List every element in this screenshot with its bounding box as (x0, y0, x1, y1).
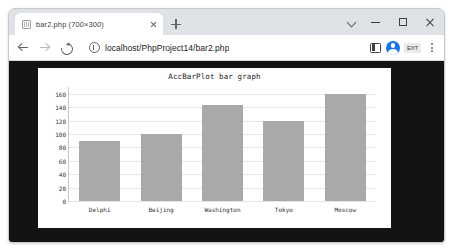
bar (202, 105, 243, 201)
browser-toolbar: localhost/PhpProject14/bar2.php EXT (9, 35, 444, 61)
page-favicon-icon (22, 20, 31, 29)
y-axis-tick-label: 120 (55, 117, 66, 124)
forward-button[interactable] (35, 38, 54, 57)
y-axis-tick-label: 60 (59, 157, 66, 164)
bar-slot: Moscow (315, 87, 376, 201)
chevron-down-icon[interactable] (340, 11, 362, 33)
x-axis-tick-label: Washington (204, 206, 240, 213)
bar-slot: Beijing (130, 87, 191, 201)
reload-button[interactable] (56, 38, 75, 57)
bar-series: DelphiBeijingWashingtonTokyoMoscow (69, 87, 376, 201)
page-viewport: AccBarPlot bar graph 0204060801001201401… (9, 61, 444, 242)
bar (79, 141, 120, 201)
y-axis-tick-label: 160 (55, 90, 66, 97)
new-tab-button[interactable] (166, 14, 186, 34)
x-axis-tick-label: Tokyo (275, 206, 293, 213)
bar-slot: Delphi (69, 87, 130, 201)
bar-slot: Tokyo (253, 87, 314, 201)
y-axis-tick-label: 100 (55, 130, 66, 137)
gridline (69, 201, 376, 202)
x-axis-tick-label: Moscow (334, 206, 356, 213)
browser-menu-icon[interactable] (424, 38, 439, 57)
site-info-icon[interactable] (89, 42, 100, 53)
x-axis-tick-label: Delphi (89, 206, 111, 213)
bar (141, 134, 182, 201)
bar-slot: Washington (192, 87, 253, 201)
back-button[interactable] (14, 38, 33, 57)
y-axis-tick-label: 80 (59, 144, 66, 151)
y-axis-tick-label: 20 (59, 184, 66, 191)
close-tab-icon[interactable] (147, 18, 159, 30)
chart-title: AccBarPlot bar graph (38, 72, 391, 81)
y-axis-tick-label: 0 (62, 198, 66, 205)
url-text: localhost/PhpProject14/bar2.php (105, 43, 229, 53)
bar-chart-image: AccBarPlot bar graph 0204060801001201401… (38, 68, 391, 228)
avatar[interactable] (386, 41, 400, 55)
x-axis-tick-label: Beijing (148, 206, 173, 213)
address-bar[interactable]: localhost/PhpProject14/bar2.php (82, 39, 364, 57)
window-controls (340, 9, 444, 35)
browser-tab[interactable]: bar2.php (700×300) (15, 13, 163, 35)
close-window-button[interactable] (416, 9, 443, 35)
tab-title: bar2.php (700×300) (36, 20, 142, 29)
y-axis-tick-label: 140 (55, 104, 66, 111)
bar (325, 94, 366, 201)
browser-window: bar2.php (700×300) localhost/PhpProject1… (8, 8, 445, 243)
maximize-button[interactable] (389, 9, 416, 35)
bar (263, 121, 304, 201)
side-panel-icon[interactable] (370, 43, 381, 53)
toolbar-actions: EXT (370, 38, 439, 57)
plot-area: 020406080100120140160 DelphiBeijingWashi… (68, 87, 376, 202)
y-axis-tick-label: 40 (59, 171, 66, 178)
minimize-button[interactable] (362, 9, 389, 35)
tab-strip: bar2.php (700×300) (9, 9, 444, 35)
extensions-badge[interactable]: EXT (404, 43, 421, 53)
